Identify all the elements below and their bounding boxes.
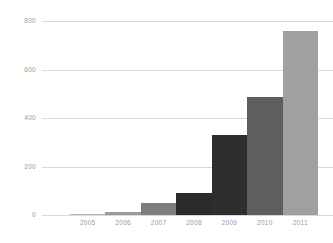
- y-tick-label-600: 600: [24, 66, 36, 74]
- bar-2008[interactable]: [176, 193, 211, 215]
- x-tick-label-2009: 2009: [212, 219, 247, 226]
- bar-2005[interactable]: [70, 214, 105, 215]
- y-tick-label-200: 200: [24, 163, 36, 171]
- bar-series: [70, 0, 318, 243]
- y-tick-label-0: 0: [32, 211, 36, 219]
- bar-2007[interactable]: [141, 203, 176, 215]
- bar-chart: 0200400600800 20052006200720082009201020…: [0, 0, 333, 243]
- x-tick-label-2006: 2006: [105, 219, 140, 226]
- x-axis-tick-labels: 2005200620072008200920102011: [70, 219, 318, 235]
- y-tick-label-400: 400: [24, 114, 36, 122]
- x-tick-label-2011: 2011: [283, 219, 318, 226]
- y-axis-tick-labels: 0200400600800: [0, 0, 40, 243]
- bar-2010[interactable]: [247, 97, 282, 215]
- bar-2009[interactable]: [212, 135, 247, 215]
- x-tick-label-2005: 2005: [70, 219, 105, 226]
- x-tick-label-2010: 2010: [247, 219, 282, 226]
- y-tick-label-800: 800: [24, 17, 36, 25]
- bar-2006[interactable]: [105, 212, 140, 215]
- bar-2011[interactable]: [283, 31, 318, 215]
- x-tick-label-2008: 2008: [176, 219, 211, 226]
- x-tick-label-2007: 2007: [141, 219, 176, 226]
